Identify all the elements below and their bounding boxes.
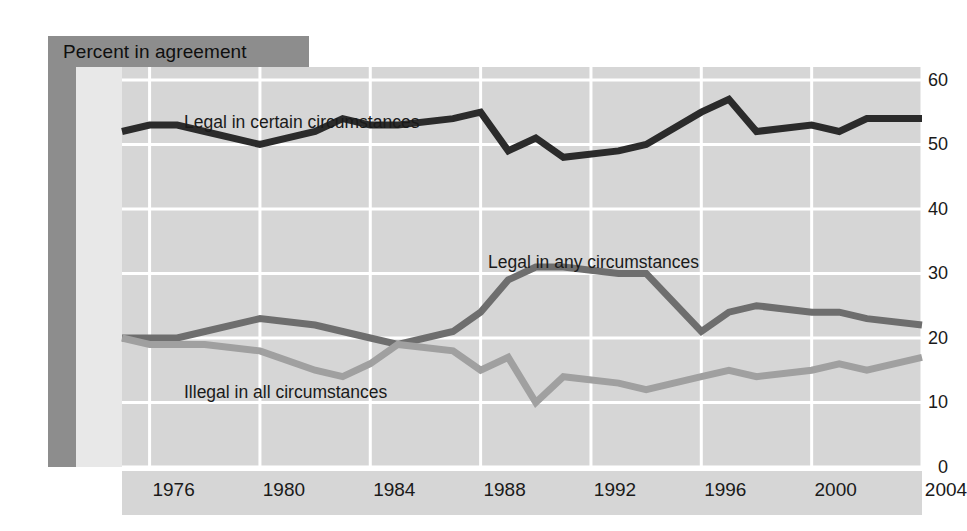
y-tick-label: 20	[928, 327, 948, 348]
x-tick-label: 1992	[594, 479, 636, 501]
series-label-illegal-all: Illegal in all circumstances	[184, 382, 387, 403]
y-tick-label: 40	[928, 198, 948, 219]
x-tick-label: 1996	[704, 479, 746, 501]
x-tick-label: 1980	[263, 479, 305, 501]
series-line-legal-in-any-circumstances	[122, 267, 922, 344]
series-label-legal-any: Legal in any circumstances	[488, 252, 699, 273]
y-tick-label: 10	[928, 392, 948, 413]
series-label-legal-certain: Legal in certain circumstances	[184, 112, 419, 133]
chart-title-bar: Percent in agreement	[48, 36, 309, 67]
y-tick-label: 60	[928, 69, 948, 90]
x-tick-label: 1988	[483, 479, 525, 501]
x-tick-label: 2004	[925, 479, 967, 501]
x-tick-label: 1984	[373, 479, 415, 501]
x-tick-label: 1976	[152, 479, 194, 501]
y-tick-label: 50	[928, 134, 948, 155]
page-title: Percent in agreement	[48, 41, 247, 63]
y-tick-label: 30	[928, 263, 948, 284]
x-tick-label: 2000	[815, 479, 857, 501]
y-tick-label: 0	[938, 457, 948, 478]
